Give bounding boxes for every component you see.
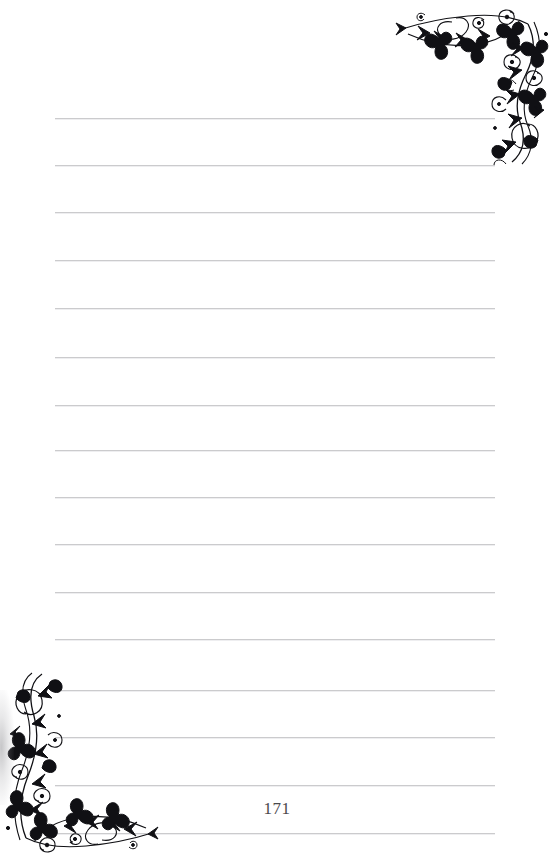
rule-line (55, 833, 495, 834)
rule-line (55, 592, 495, 593)
scan-smudge-artifact (0, 690, 14, 805)
rule-line (55, 497, 495, 498)
notebook-page: 171 (0, 0, 554, 862)
floral-corner-ornament-bottom-left-icon (0, 672, 160, 862)
floral-vine-svg-bottom-left (0, 672, 160, 862)
rule-line (55, 737, 495, 738)
rule-line (55, 690, 495, 691)
rule-line (55, 118, 495, 119)
rule-line (55, 260, 495, 261)
rule-line (55, 165, 495, 166)
rule-line (55, 785, 495, 786)
floral-vine-svg-top-right (394, 0, 554, 166)
rule-line (55, 357, 495, 358)
rule-line (55, 639, 495, 640)
rule-line (55, 405, 495, 406)
floral-corner-ornament-top-right-icon (394, 0, 554, 166)
rule-line (55, 308, 495, 309)
ruled-lines-group (0, 0, 554, 862)
rule-line (55, 544, 495, 545)
rule-line (55, 212, 495, 213)
rule-line (55, 450, 495, 451)
page-number: 171 (0, 798, 554, 820)
